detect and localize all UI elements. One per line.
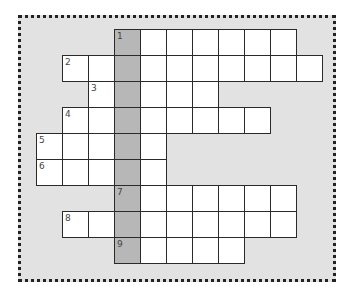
crossword-cell[interactable] xyxy=(88,159,115,186)
crossword-cell[interactable] xyxy=(244,211,271,238)
crossword-cell[interactable] xyxy=(140,185,167,212)
crossword-cell[interactable] xyxy=(88,211,115,238)
crossword-cell[interactable] xyxy=(218,211,245,238)
crossword-cell[interactable] xyxy=(192,237,219,264)
crossword-cell[interactable] xyxy=(244,185,271,212)
clue-number: 5 xyxy=(39,135,45,145)
clue-number: 3 xyxy=(91,83,97,93)
crossword-cell[interactable] xyxy=(192,211,219,238)
crossword-cell[interactable] xyxy=(244,55,271,82)
crossword-cell[interactable] xyxy=(270,29,297,56)
crossword-cell[interactable] xyxy=(114,211,141,238)
crossword-cell[interactable]: 5 xyxy=(36,133,63,160)
crossword-cell[interactable] xyxy=(140,81,167,108)
crossword-cell[interactable] xyxy=(114,133,141,160)
clue-number: 8 xyxy=(65,213,71,223)
crossword-cell[interactable] xyxy=(114,81,141,108)
crossword-cell[interactable]: 8 xyxy=(62,211,89,238)
crossword-cell[interactable] xyxy=(166,55,193,82)
crossword-cell[interactable] xyxy=(114,159,141,186)
clue-number: 7 xyxy=(117,187,123,197)
clue-number: 9 xyxy=(117,239,123,249)
crossword-cell[interactable] xyxy=(270,55,297,82)
crossword-cell[interactable] xyxy=(114,55,141,82)
crossword-cell[interactable] xyxy=(296,55,323,82)
crossword-cell[interactable] xyxy=(244,107,271,134)
crossword-cell[interactable]: 4 xyxy=(62,107,89,134)
crossword-cell[interactable] xyxy=(192,185,219,212)
crossword-cell[interactable] xyxy=(88,55,115,82)
crossword-cell[interactable] xyxy=(218,107,245,134)
crossword-cell[interactable] xyxy=(166,185,193,212)
crossword-cell[interactable] xyxy=(166,237,193,264)
crossword-cell[interactable] xyxy=(192,107,219,134)
crossword-cell[interactable]: 2 xyxy=(62,55,89,82)
crossword-cell[interactable] xyxy=(218,55,245,82)
clue-number: 1 xyxy=(117,31,123,41)
crossword-cell[interactable] xyxy=(140,29,167,56)
crossword-cell[interactable] xyxy=(114,107,141,134)
crossword-cell[interactable] xyxy=(140,55,167,82)
crossword-cell[interactable] xyxy=(218,29,245,56)
crossword-cell[interactable] xyxy=(62,133,89,160)
crossword-cell[interactable]: 3 xyxy=(88,81,115,108)
crossword-cell[interactable] xyxy=(218,237,245,264)
crossword-cell[interactable] xyxy=(62,159,89,186)
crossword-cell[interactable]: 6 xyxy=(36,159,63,186)
crossword-cell[interactable] xyxy=(166,81,193,108)
crossword-cell[interactable]: 9 xyxy=(114,237,141,264)
crossword-cell[interactable] xyxy=(140,211,167,238)
clue-number: 4 xyxy=(65,109,71,119)
crossword-cell[interactable] xyxy=(192,81,219,108)
crossword-cell[interactable]: 7 xyxy=(114,185,141,212)
crossword-cell[interactable] xyxy=(166,211,193,238)
crossword-cell[interactable] xyxy=(166,107,193,134)
crossword-cell[interactable] xyxy=(88,133,115,160)
crossword-cell[interactable] xyxy=(140,133,167,160)
crossword-cell[interactable]: 1 xyxy=(114,29,141,56)
crossword-cell[interactable] xyxy=(218,185,245,212)
crossword-cell[interactable] xyxy=(140,107,167,134)
crossword-cell[interactable] xyxy=(192,55,219,82)
crossword-cell[interactable] xyxy=(88,107,115,134)
crossword-cell[interactable] xyxy=(140,237,167,264)
clue-number: 6 xyxy=(39,161,45,171)
crossword-cell[interactable] xyxy=(244,29,271,56)
clue-number: 2 xyxy=(65,57,71,67)
crossword-cell[interactable] xyxy=(270,185,297,212)
crossword-cell[interactable] xyxy=(166,29,193,56)
crossword-cell[interactable] xyxy=(192,29,219,56)
crossword-cell[interactable] xyxy=(270,211,297,238)
crossword-cell[interactable] xyxy=(140,159,167,186)
